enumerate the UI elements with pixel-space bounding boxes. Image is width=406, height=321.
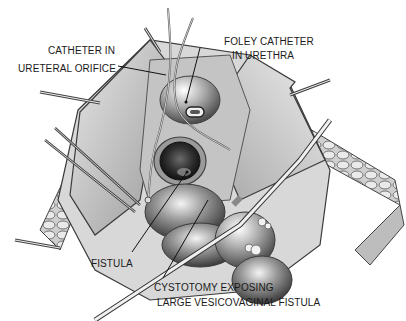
label-foley-line1: FOLEY CATHETER [224,35,314,48]
label-cystotomy-line2: LARGE VESICOVAGINAL FISTULA [157,296,320,309]
label-fistula: FISTULA [91,257,133,270]
label-cystotomy-line1: CYSTOTOMY EXPOSING [154,281,274,294]
label-catheter-ureteral-line2: URETERAL ORIFICE [18,62,116,75]
label-foley-line2: IN URETHRA [232,49,294,62]
vesicovaginal-fistula-illustration: CATHETER IN URETERAL ORIFICE FOLEY CATHE… [0,0,406,321]
label-catheter-ureteral-line1: CATHETER IN [48,44,115,57]
